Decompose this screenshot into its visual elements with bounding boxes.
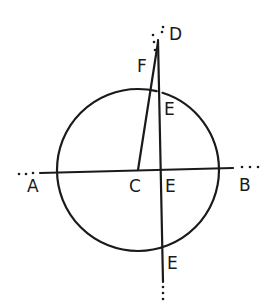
line-DE xyxy=(158,40,163,282)
line-DE-dotted-bottom xyxy=(162,286,165,301)
label-E-top: E xyxy=(164,99,175,119)
label-E-middle: E xyxy=(165,176,176,196)
label-C: C xyxy=(129,176,141,196)
label-A: A xyxy=(27,176,39,196)
label-E-bottom: E xyxy=(167,253,178,273)
line-AB-dotted-right xyxy=(241,166,260,169)
label-B: B xyxy=(239,175,251,195)
line-AB xyxy=(40,168,233,173)
geometry-diagram: A B C D F E E E xyxy=(0,0,270,303)
line-AB-dotted-left xyxy=(18,172,35,176)
label-D: D xyxy=(169,24,182,44)
label-F: F xyxy=(137,56,147,76)
